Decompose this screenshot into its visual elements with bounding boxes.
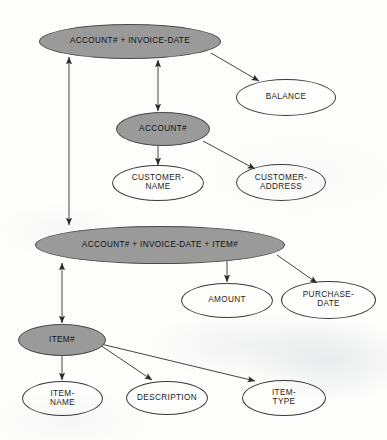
- node-item[interactable]: ITEM#: [18, 324, 106, 356]
- edge-acct-invdate-to-balance: [211, 53, 259, 81]
- node-acct-invdate-item[interactable]: ACCOUNT# + INVOICE-DATE + ITEM#: [35, 226, 285, 264]
- node-label-purchase-date: PURCHASE- DATE: [303, 291, 354, 309]
- edge-acct-to-customer-address: [203, 141, 255, 169]
- node-acct-invdate[interactable]: ACCOUNT# + INVOICE-DATE: [39, 24, 221, 59]
- node-label-item: ITEM#: [49, 336, 75, 345]
- node-item-type[interactable]: ITEM- TYPE: [242, 380, 326, 416]
- node-balance[interactable]: BALANCE: [236, 79, 336, 116]
- edge-layer: [0, 0, 387, 440]
- node-label-balance: BALANCE: [266, 93, 307, 102]
- node-label-customer-name: CUSTOMER- NAME: [132, 174, 185, 192]
- diagram-canvas: ACCOUNT# + INVOICE-DATEBALANCEACCOUNT#CU…: [0, 0, 387, 440]
- node-purchase-date[interactable]: PURCHASE- DATE: [281, 281, 376, 319]
- node-acct[interactable]: ACCOUNT#: [116, 112, 210, 146]
- node-label-amount: AMOUNT: [208, 296, 246, 305]
- node-description[interactable]: DESCRIPTION: [126, 381, 208, 415]
- node-customer-address[interactable]: CUSTOMER- ADDRESS: [236, 164, 326, 201]
- node-label-item-name: ITEM- NAME: [50, 390, 75, 408]
- node-label-acct: ACCOUNT#: [139, 125, 187, 134]
- node-label-customer-address: CUSTOMER- ADDRESS: [255, 174, 308, 192]
- node-label-description: DESCRIPTION: [137, 394, 197, 403]
- node-customer-name[interactable]: CUSTOMER- NAME: [112, 165, 204, 201]
- node-label-item-type: ITEM- TYPE: [272, 389, 296, 407]
- node-label-acct-invdate: ACCOUNT# + INVOICE-DATE: [70, 37, 190, 46]
- node-amount[interactable]: AMOUNT: [181, 283, 273, 318]
- node-label-acct-invdate-item: ACCOUNT# + INVOICE-DATE + ITEM#: [82, 241, 238, 250]
- edge-item-to-item-type: [101, 344, 255, 381]
- edge-composite-to-purchase-date: [277, 255, 317, 283]
- node-item-name[interactable]: ITEM- NAME: [22, 381, 103, 416]
